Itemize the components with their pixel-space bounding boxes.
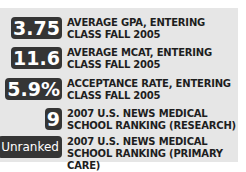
stat-row-gpa: 3.75 AVERAGE GPA, ENTERING CLASS FALL 20… [0,17,238,45]
stat-value-badge: 11.6 [11,47,62,69]
stat-value-badge: 9 [45,108,62,130]
stat-label: AVERAGE GPA, ENTERING CLASS FALL 2005 [67,17,237,41]
stats-panel: 3.75 AVERAGE GPA, ENTERING CLASS FALL 20… [0,8,238,162]
stat-label: ACCEPTANCE RATE, ENTERING CLASS FALL 200… [67,78,237,102]
stat-label: 2007 U.S. NEWS MEDICAL SCHOOL RANKING (R… [67,108,237,132]
stat-value-badge: 3.75 [11,17,62,39]
stat-row-mcat: 11.6 AVERAGE MCAT, ENTERING CLASS FALL 2… [0,47,238,75]
stat-value-badge: 5.9% [5,78,62,100]
stat-label: AVERAGE MCAT, ENTERING CLASS FALL 2005 [67,47,237,71]
stat-label: 2007 U.S. NEWS MEDICAL SCHOOL RANKING (P… [67,136,237,172]
stat-row-acceptance: 5.9% ACCEPTANCE RATE, ENTERING CLASS FAL… [0,78,238,106]
stat-value-badge: Unranked [0,136,62,158]
stat-row-research-rank: 9 2007 U.S. NEWS MEDICAL SCHOOL RANKING … [0,108,238,136]
stat-row-primary-care-rank: Unranked 2007 U.S. NEWS MEDICAL SCHOOL R… [0,136,238,164]
